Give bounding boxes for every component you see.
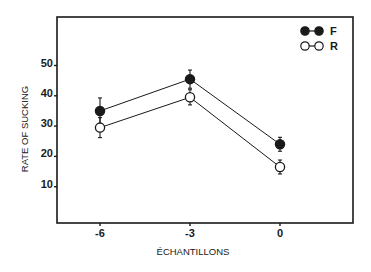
chart: 1020304050 -6-30 FR RATE OF SUCKING ÉCHA… [0,0,371,272]
filled-circle-icon [301,27,309,35]
x-tick-label: -6 [95,227,105,239]
legend: FR [301,25,338,52]
y-axis-title: RATE OF SUCKING [19,86,30,172]
x-axis-ticks: -6-30 [95,223,283,239]
legend-item-f: F [301,25,337,37]
x-axis-title: ÉCHANTILLONS [157,246,230,257]
series-line [100,97,280,167]
open-circle-icon [301,42,309,50]
filled-circle-marker [185,75,194,84]
y-tick-label: 50 [41,57,53,69]
open-circle-marker [185,93,194,102]
open-circle-marker [95,123,104,132]
filled-circle-marker [95,106,104,115]
series-f [95,70,284,151]
y-tick-label: 30 [41,117,53,129]
legend-label: F [330,25,337,37]
series-line [100,79,280,144]
y-axis-ticks: 1020304050 [41,57,57,190]
open-circle-marker [275,162,284,171]
data-series [95,70,284,174]
line-chart: 1020304050 -6-30 FR RATE OF SUCKING ÉCHA… [0,0,371,272]
y-tick-label: 20 [41,147,53,159]
filled-circle-icon [315,27,323,35]
legend-label: R [330,40,338,52]
y-tick-label: 10 [41,178,53,190]
y-tick-label: 40 [41,87,53,99]
legend-item-r: R [301,40,338,52]
open-circle-icon [315,42,323,50]
x-tick-label: 0 [277,227,283,239]
filled-circle-marker [275,140,284,149]
x-tick-label: -3 [185,227,195,239]
